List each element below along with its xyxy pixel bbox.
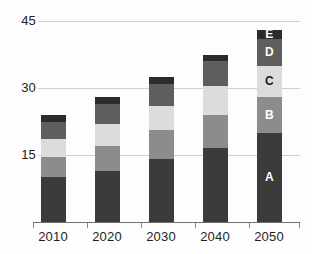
x-axis-tick-1: [87, 223, 88, 228]
bar-segment-2040-A[interactable]: [203, 148, 228, 222]
bar-segment-2050-D[interactable]: D: [257, 39, 282, 66]
segment-label-C: C: [257, 75, 282, 87]
bar-segment-2040-D[interactable]: [203, 61, 228, 86]
bar-2050[interactable]: ABCDE: [257, 30, 282, 222]
bar-segment-2050-B[interactable]: B: [257, 97, 282, 133]
bar-segment-2020-B[interactable]: [95, 146, 120, 171]
bar-segment-2050-A[interactable]: A: [257, 133, 282, 222]
bar-segment-2040-C[interactable]: [203, 86, 228, 115]
y-axis-tick-45: 45: [0, 14, 36, 27]
bar-segment-2010-C[interactable]: [41, 139, 66, 157]
bar-segment-2010-D[interactable]: [41, 122, 66, 140]
bar-segment-2040-E[interactable]: [203, 55, 228, 62]
bar-segment-2020-A[interactable]: [95, 171, 120, 222]
bar-segment-2020-E[interactable]: [95, 97, 120, 104]
x-axis-tick-4: [249, 223, 250, 228]
bar-segment-2010-E[interactable]: [41, 115, 66, 122]
bar-2040[interactable]: [203, 55, 228, 222]
x-axis-tick-5: [299, 223, 300, 228]
segment-label-E: E: [257, 28, 282, 40]
bar-segment-2010-A[interactable]: [41, 177, 66, 222]
bar-segment-2020-C[interactable]: [95, 124, 120, 146]
gridline-45: [38, 21, 300, 22]
y-axis-tick-30-label: 30: [4, 81, 36, 94]
bar-segment-2030-D[interactable]: [149, 84, 174, 106]
bar-segment-2030-C[interactable]: [149, 106, 174, 131]
stacked-bar-chart: 45 30 15 ABCDE 20102020203020402050: [0, 0, 312, 254]
bar-segment-2030-B[interactable]: [149, 130, 174, 159]
x-axis-label-2020: 2020: [77, 229, 137, 244]
x-axis-tick-3: [195, 223, 196, 228]
y-axis-tick-30: 30: [0, 81, 36, 94]
x-axis-label-2040: 2040: [185, 229, 245, 244]
bar-segment-2050-E[interactable]: E: [257, 30, 282, 39]
bar-segment-2050-C[interactable]: C: [257, 66, 282, 97]
x-axis-tick-0: [33, 223, 34, 228]
y-axis-tick-15-label: 15: [4, 148, 36, 161]
x-axis-label-2050: 2050: [239, 229, 299, 244]
bar-2010[interactable]: [41, 115, 66, 222]
y-axis-tick-15: 15: [0, 148, 36, 161]
bar-segment-2030-A[interactable]: [149, 159, 174, 222]
bar-2030[interactable]: [149, 77, 174, 222]
x-axis-line: [33, 222, 300, 223]
x-axis-label-2030: 2030: [131, 229, 191, 244]
bar-segment-2030-E[interactable]: [149, 77, 174, 84]
segment-label-B: B: [257, 109, 282, 121]
y-axis-tick-45-label: 45: [4, 14, 36, 27]
bar-segment-2010-B[interactable]: [41, 157, 66, 177]
bar-segment-2040-B[interactable]: [203, 115, 228, 149]
segment-label-D: D: [257, 46, 282, 58]
bar-segment-2020-D[interactable]: [95, 104, 120, 124]
bar-2020[interactable]: [95, 97, 120, 222]
segment-label-A: A: [257, 171, 282, 183]
x-axis-tick-2: [141, 223, 142, 228]
x-axis-label-2010: 2010: [23, 229, 83, 244]
